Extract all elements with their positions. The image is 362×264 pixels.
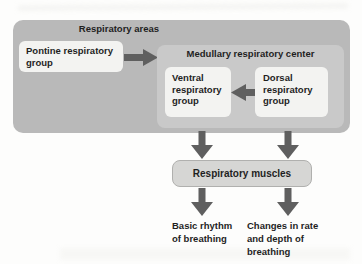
dorsal-to-ventral-arrow	[231, 84, 255, 101]
respiratory-muscles-label: Respiratory muscles	[193, 168, 291, 179]
ventral-group-label: Ventral respiratory group	[172, 72, 222, 106]
medullary-to-muscles-arrow-left	[191, 131, 213, 159]
respiratory-muscles-box: Respiratory muscles	[172, 160, 312, 187]
medullary-to-muscles-arrow-right	[277, 131, 299, 159]
muscles-to-rate-depth-arrow	[277, 188, 299, 216]
outcome-rate-depth: Changes in rate and depth of breathing	[247, 219, 335, 258]
diagram-canvas: Respiratory areas Pontine respiratory gr…	[0, 0, 362, 264]
outcome-basic-rhythm: Basic rhythm of breathing	[172, 219, 240, 245]
scan-artifact-top	[18, 3, 348, 11]
arrow-down-icon	[277, 188, 299, 216]
muscles-to-rhythm-arrow	[191, 188, 213, 216]
respiratory-areas-title: Respiratory areas	[19, 23, 219, 34]
pontine-group-box: Pontine respiratory group	[19, 41, 123, 72]
pontine-group-label: Pontine respiratory group	[26, 45, 113, 68]
ventral-group-box: Ventral respiratory group	[165, 67, 231, 117]
pontine-to-medullary-arrow	[124, 49, 158, 66]
dorsal-group-label: Dorsal respiratory group	[263, 72, 313, 106]
arrow-down-icon	[191, 188, 213, 216]
arrow-down-icon	[277, 131, 299, 159]
arrow-left-icon	[231, 84, 255, 101]
medullary-center-title: Medullary respiratory center	[157, 48, 344, 59]
arrow-right-icon	[124, 49, 158, 66]
arrow-down-icon	[191, 131, 213, 159]
dorsal-group-box: Dorsal respiratory group	[255, 67, 328, 117]
